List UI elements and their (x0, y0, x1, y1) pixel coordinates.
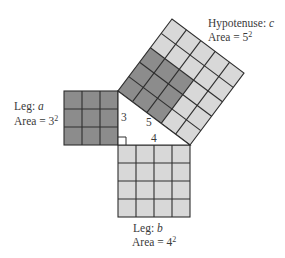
hypotenuse-label-prefix: Hypotenuse: (208, 17, 269, 29)
hypotenuse-length: 5 (146, 116, 152, 128)
leg-b-area: Area = 42 (132, 235, 176, 249)
leg-b-area-text: Area = 4 (132, 236, 172, 248)
leg-a-area: Area = 32 (14, 114, 58, 128)
leg-a-area-exponent: 2 (54, 114, 58, 123)
leg-a-label: Leg: a (14, 99, 44, 113)
hypotenuse-label: Hypotenuse: c (208, 16, 274, 30)
hypotenuse-variable: c (269, 17, 274, 29)
square-leg-b (118, 145, 190, 217)
side-b-length: 4 (151, 132, 157, 144)
hypotenuse-area-text: Area = 5 (208, 31, 248, 43)
square-leg-a (64, 91, 118, 145)
leg-b-area-exponent: 2 (172, 235, 176, 244)
hypotenuse-area-exponent: 2 (248, 30, 252, 39)
leg-b-label-prefix: Leg: (133, 222, 157, 234)
leg-a-label-prefix: Leg: (14, 100, 38, 112)
leg-a-variable: a (38, 100, 44, 112)
hypotenuse-area: Area = 52 (208, 30, 252, 44)
leg-b-label: Leg: b (133, 221, 163, 235)
side-a-length: 3 (121, 111, 127, 123)
leg-a-area-text: Area = 3 (14, 115, 54, 127)
leg-b-variable: b (157, 222, 163, 234)
